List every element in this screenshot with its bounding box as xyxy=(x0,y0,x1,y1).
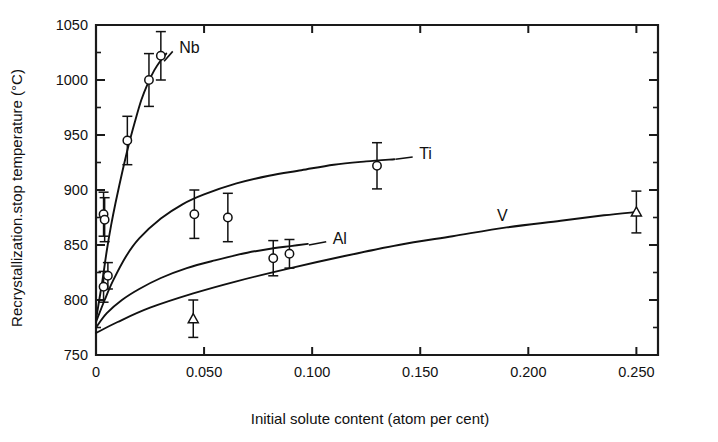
error-bars xyxy=(99,32,642,338)
series-label-nb: Nb xyxy=(179,39,200,56)
data-markers xyxy=(99,52,641,323)
x-tick-label: 0.050 xyxy=(186,364,222,380)
y-tick-label: 750 xyxy=(64,347,88,363)
leader-line-ti xyxy=(395,157,412,159)
series-label-v: V xyxy=(497,207,508,224)
series-leader-lines xyxy=(164,51,413,245)
y-tick-label: 850 xyxy=(64,237,88,253)
data-point-ti xyxy=(190,210,198,218)
x-tick-label: 0 xyxy=(92,364,100,380)
data-point-nb xyxy=(99,283,107,291)
data-point-ti xyxy=(373,162,381,170)
y-tick-label: 950 xyxy=(64,127,88,143)
y-tick-label: 1000 xyxy=(56,72,88,88)
y-tick-label: 1050 xyxy=(56,17,88,33)
data-point-nb xyxy=(145,76,153,84)
data-point-ti xyxy=(224,213,232,221)
data-point-ti xyxy=(100,216,108,224)
axis-ticks xyxy=(96,25,658,355)
x-tick-label: 0.100 xyxy=(294,364,330,380)
x-tick-label: 0.150 xyxy=(402,364,438,380)
plot-frame xyxy=(96,25,658,355)
data-point-al xyxy=(269,254,277,262)
data-point-v xyxy=(188,314,198,323)
y-tick-label: 800 xyxy=(64,292,88,308)
x-axis-title: Initial solute content (atom per cent) xyxy=(251,410,489,427)
curve-v xyxy=(96,212,636,333)
curve-ti xyxy=(96,159,394,322)
data-point-nb xyxy=(104,272,112,280)
y-axis-title: Recrystallization.stop temperature (°C) xyxy=(8,69,25,327)
series-label-al: Al xyxy=(333,230,347,247)
axis-tick-labels: 7508008509009501000105000.0500.1000.1500… xyxy=(56,17,655,380)
x-tick-label: 0.250 xyxy=(618,364,654,380)
series-curves xyxy=(96,54,636,333)
data-point-nb xyxy=(123,136,131,144)
chart-figure: 7508008509009501000105000.0500.1000.1500… xyxy=(0,0,718,442)
series-label-ti: Ti xyxy=(419,145,432,162)
data-point-al xyxy=(285,250,293,258)
x-tick-label: 0.200 xyxy=(510,364,546,380)
y-tick-label: 900 xyxy=(64,182,88,198)
leader-line-al xyxy=(309,242,326,245)
data-point-nb xyxy=(157,52,165,60)
